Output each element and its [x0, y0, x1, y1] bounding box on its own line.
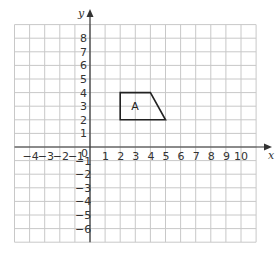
y-tick-label: 2 — [80, 114, 87, 127]
x-tick-label: 1 — [102, 150, 109, 163]
y-tick-label: 4 — [80, 87, 87, 100]
x-tick-label: 9 — [223, 150, 230, 163]
y-tick-label: −3 — [75, 182, 91, 195]
origin-label: 0 — [81, 147, 88, 160]
x-tick-label: −3 — [38, 150, 54, 163]
x-tick-label: 10 — [234, 150, 248, 163]
y-axis-arrow-icon — [87, 9, 94, 17]
shape-label: A — [131, 100, 139, 113]
x-tick-label: 6 — [178, 150, 185, 163]
y-tick-label: −5 — [75, 209, 91, 222]
x-tick-label: 3 — [132, 150, 139, 163]
y-tick-label: 6 — [80, 59, 87, 72]
y-axis-label: y — [77, 7, 85, 20]
y-tick-label: 5 — [80, 73, 87, 86]
coordinate-grid: xy A −4−3−2−11234567891087654321−1−2−3−4… — [0, 0, 278, 253]
x-tick-label: 7 — [193, 150, 200, 163]
y-tick-label: −2 — [75, 168, 91, 181]
x-tick-label: 5 — [163, 150, 170, 163]
grid-lines — [15, 25, 257, 243]
y-tick-label: 7 — [80, 46, 87, 59]
x-tick-label: 8 — [208, 150, 215, 163]
x-tick-label: −4 — [23, 150, 39, 163]
y-tick-label: −6 — [75, 223, 91, 236]
y-tick-label: 3 — [80, 100, 87, 113]
x-tick-label: −2 — [53, 150, 69, 163]
x-tick-label: 2 — [117, 150, 124, 163]
y-tick-label: 1 — [80, 127, 87, 140]
y-tick-label: −4 — [75, 195, 91, 208]
axes: xy — [15, 7, 276, 242]
y-tick-label: 8 — [80, 32, 87, 45]
x-tick-label: 4 — [147, 150, 154, 163]
x-axis-label: x — [268, 149, 275, 162]
